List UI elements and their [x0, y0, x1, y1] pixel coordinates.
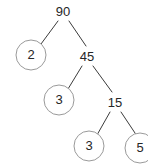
- tree-node-n2: 2: [16, 40, 46, 70]
- tree-node-n45: 45: [80, 49, 94, 64]
- tree-node-n5: 5: [125, 133, 148, 163]
- tree-edge-n90-n45: [69, 21, 86, 46]
- tree-node-n3a: 3: [44, 85, 74, 115]
- tree-edge-n45-n15: [93, 66, 112, 92]
- tree-node-label-n90: 90: [56, 4, 70, 19]
- tree-edge-n15-n5: [121, 112, 137, 136]
- tree-node-label-n5: 5: [136, 140, 143, 155]
- tree-node-label-n2: 2: [27, 47, 34, 62]
- tree-edge-n45-n3a: [68, 66, 82, 89]
- factor-tree-canvas: 9024531535: [0, 0, 148, 167]
- tree-edge-n90-n2: [41, 21, 58, 44]
- factor-tree-diagram: 9024531535: [0, 0, 148, 167]
- tree-node-n90: 90: [56, 4, 70, 19]
- tree-node-n15: 15: [108, 95, 122, 110]
- tree-node-n3b: 3: [74, 131, 104, 161]
- tree-node-label-n45: 45: [80, 49, 94, 64]
- tree-node-label-n15: 15: [108, 95, 122, 110]
- tree-node-label-n3a: 3: [55, 92, 62, 107]
- tree-node-label-n3b: 3: [85, 138, 92, 153]
- tree-edge-n15-n3b: [97, 112, 110, 135]
